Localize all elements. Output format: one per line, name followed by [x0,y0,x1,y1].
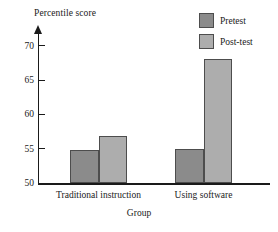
x-axis-line [38,183,270,185]
legend-label: Pretest [220,16,246,26]
legend-label: Post-test [220,37,253,47]
bar-pretest-2 [175,149,204,183]
legend-swatch-icon [199,34,214,49]
x-axis-category-label: Using software [134,190,274,200]
legend-item: Post-test [199,32,253,51]
legend-item: Pretest [199,11,253,30]
bar-pretest-1 [70,150,99,183]
legend-swatch-icon [199,13,214,28]
legend: PretestPost-test [199,11,253,53]
bar-post-test-1 [99,136,128,183]
x-axis-title: Group [0,208,278,218]
bar-chart: Percentile score 7065605550 Traditional … [0,0,278,232]
bar-post-test-2 [204,59,233,183]
